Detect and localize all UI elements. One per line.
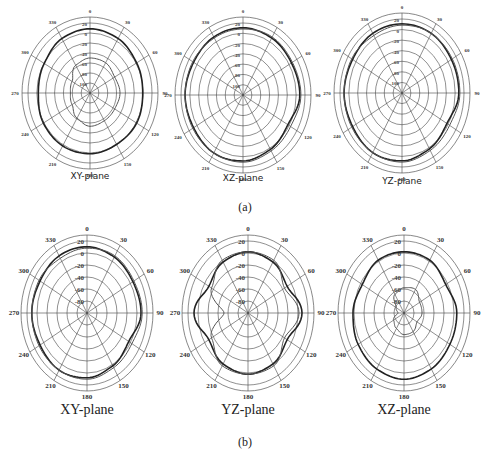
angle-tick-label: 150 [277,166,285,171]
angle-tick-label: 330 [45,236,56,244]
angle-tick-label: 150 [435,382,446,390]
angle-tick-label: 120 [151,132,159,137]
angle-tick-label: 30 [125,20,131,25]
angle-tick-label: 330 [202,20,210,25]
radial-tick-label: -60 [75,286,85,294]
polar-figure: 0306090120150180210240270300330200-20-40… [0,0,486,463]
angle-tick-label: 210 [45,382,56,390]
angle-tick-label: 0 [246,225,250,233]
radial-tick-label: 20 [235,22,241,27]
radial-tick-label: -40 [392,274,402,282]
radial-tick-label: 0 [397,29,400,34]
polar-plot-a-xy-plane: 0306090120150180210240270300330200-20-40… [11,9,168,178]
angle-tick-label: 300 [21,50,29,55]
angle-tick-label: 0 [85,225,89,233]
radial-tick-label: -100 [390,81,400,86]
radial-tick-label: -20 [75,262,85,270]
radial-tick-label: -80 [392,298,402,306]
radial-tick-label: 20 [82,22,88,27]
angle-tick-label: 240 [336,351,347,359]
polar-plot-a-xz-plane: 0306090120150180210240270300330200-20-40… [164,9,321,182]
angle-tick-label: 330 [206,236,217,244]
caption-a-yz: YZ-plane [357,176,447,186]
radial-tick-label: -60 [236,286,246,294]
radial-tick-label: -80 [392,71,399,76]
radial-tick-label: -40 [80,52,87,57]
radial-tick-label: -20 [80,42,87,47]
angle-tick-label: 120 [145,351,156,359]
angle-tick-label: 240 [21,132,29,137]
angle-tick-label: 300 [174,51,182,56]
radial-tick-label: 20 [77,238,85,246]
angle-tick-label: 210 [362,382,373,390]
radial-tick-label: 0 [238,32,241,37]
angle-tick-label: 60 [147,267,155,275]
radial-tick-label: -20 [233,43,240,48]
caption-a-xz: XZ-plane [198,173,288,183]
angle-tick-label: 300 [180,267,191,275]
angle-tick-label: 300 [333,48,341,53]
caption-b-xy: XY-plane [37,402,137,418]
angle-tick-label: 270 [11,91,19,96]
radial-tick-label: -20 [392,39,399,44]
angle-tick-label: 90 [474,309,482,317]
angle-tick-label: 330 [361,17,369,22]
angle-tick-label: 150 [124,162,132,167]
angle-tick-label: 180 [82,393,93,401]
angle-tick-label: 60 [308,267,316,275]
radial-tick-label: -40 [236,274,246,282]
angle-tick-label: 0 [242,9,245,14]
angle-tick-label: 30 [437,236,445,244]
polar-plot-b-xy-plane: 0306090120150180210240270300330200-20-40… [9,225,164,401]
radial-tick-label: -60 [80,62,87,67]
angle-tick-label: 60 [464,267,472,275]
angle-tick-label: 270 [323,91,331,96]
angle-tick-label: 240 [180,351,191,359]
radial-tick-label: -100 [231,84,241,89]
angle-tick-label: 300 [336,267,347,275]
angle-tick-label: 90 [475,91,481,96]
radial-tick-label: 20 [238,238,246,246]
angle-tick-label: 240 [174,135,182,140]
series-cross-pol [393,288,422,335]
angle-tick-label: 270 [164,93,172,98]
angle-tick-label: 330 [49,20,57,25]
angle-tick-label: 210 [206,382,217,390]
angle-tick-label: 270 [9,309,20,317]
angle-tick-label: 120 [306,351,317,359]
angle-tick-label: 0 [89,9,92,14]
angle-tick-label: 150 [279,382,290,390]
angle-tick-label: 120 [463,134,471,139]
angle-tick-label: 120 [462,351,473,359]
figure-label-b: (b) [205,435,285,450]
angle-tick-label: 0 [402,225,406,233]
angle-tick-label: 180 [399,393,410,401]
radial-tick-label: -100 [78,82,88,87]
angle-tick-label: 60 [464,48,470,53]
angle-tick-label: 210 [361,165,369,170]
radial-tick-label: -20 [392,262,402,270]
radial-tick-label: -60 [392,60,399,65]
polar-plot-b-xz-plane: 0306090120150180210240270300330200-20-40… [326,225,481,401]
radial-tick-label: -80 [80,72,87,77]
angle-tick-label: 90 [318,309,326,317]
angle-tick-label: 210 [202,166,210,171]
radial-tick-label: 0 [85,32,88,37]
radial-tick-label: -40 [75,274,85,282]
angle-tick-label: 30 [120,236,128,244]
radial-tick-label: -80 [233,73,240,78]
series-co-pol [38,29,142,154]
radial-tick-label: -40 [392,50,399,55]
angle-tick-label: 150 [118,382,129,390]
angle-tick-label: 30 [437,17,443,22]
polar-plot-a-yz-plane: 0306090120150180210240270300330200-20-40… [323,5,480,182]
caption-b-yz: YZ-plane [198,402,298,418]
radial-tick-label: -20 [236,262,246,270]
polar-plot-b-yz-plane: 0306090120150180210240270300330200-20-40… [170,225,325,401]
angle-tick-label: 90 [316,93,322,98]
radial-tick-label: -40 [233,53,240,58]
angle-tick-label: 330 [362,236,373,244]
angle-tick-label: 120 [304,135,312,140]
angle-tick-label: 270 [170,309,181,317]
angle-tick-label: 90 [157,309,165,317]
